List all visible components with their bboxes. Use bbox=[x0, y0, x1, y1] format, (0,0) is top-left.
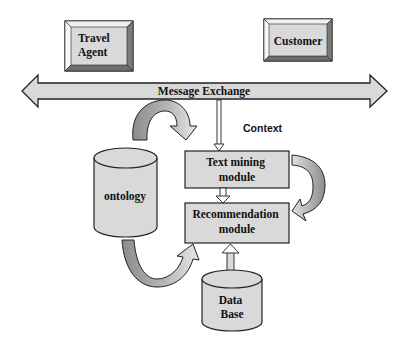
customer-label: Customer bbox=[274, 35, 323, 47]
curved-arrow-bottom bbox=[122, 240, 199, 287]
recommendation-module: Recommendation module bbox=[185, 203, 289, 243]
travel-agent-box: Travel Agent bbox=[65, 21, 133, 71]
ontology-label: ontology bbox=[104, 190, 146, 203]
text-mining-module: Text mining module bbox=[185, 151, 289, 188]
module-link-arrow bbox=[216, 188, 230, 203]
database-cylinder: Data Base bbox=[202, 270, 262, 331]
context-label: Context bbox=[243, 122, 283, 134]
ontology-cylinder: ontology bbox=[94, 148, 157, 237]
message-exchange-bar: Message Exchange bbox=[22, 75, 387, 107]
curved-arrow-top bbox=[133, 100, 197, 140]
curved-arrow-right bbox=[292, 155, 325, 221]
architecture-diagram: Travel Agent Customer Message Exchange C… bbox=[0, 0, 404, 345]
database-arrow bbox=[222, 244, 239, 272]
customer-box: Customer bbox=[264, 19, 332, 61]
message-exchange-label: Message Exchange bbox=[158, 85, 250, 98]
context-arrow bbox=[214, 100, 224, 151]
